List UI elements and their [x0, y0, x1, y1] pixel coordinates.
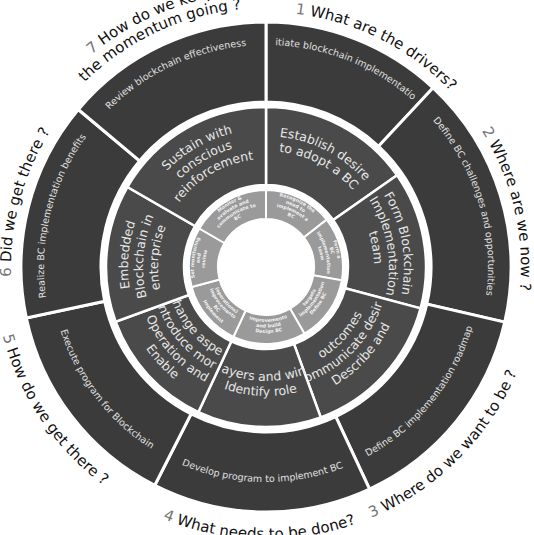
blockchain-cycle-diagram: Initiate blockchain implementationDefine… [0, 0, 534, 535]
wheel-svg: Initiate blockchain implementationDefine… [0, 0, 534, 535]
center-hole [218, 219, 314, 315]
